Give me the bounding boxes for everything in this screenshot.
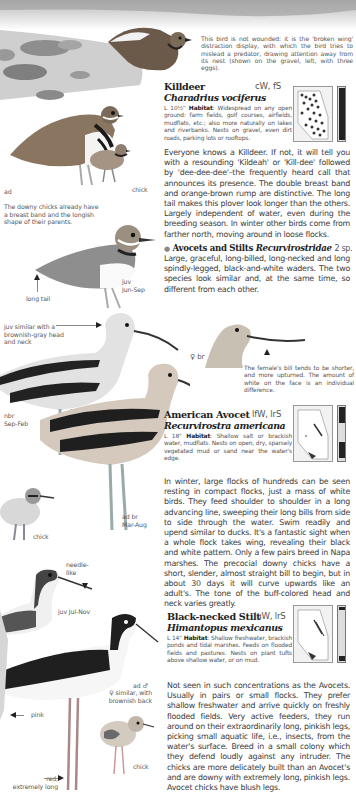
broken-wing-caption: This bird is not wounded: it is the 'bro…	[201, 35, 353, 71]
stilt-habitat-label: Habitat	[184, 635, 208, 641]
red-arrow-line	[44, 778, 58, 779]
avocet-status-code: lfW, lrS	[252, 409, 281, 419]
avocet-habitat-text: : Shallow salt or brackish water, mudfla…	[164, 433, 292, 461]
label-needle-like: needle- like	[66, 561, 89, 576]
label-juv-avocet-note: juv similar with a brownish-gray head an…	[4, 323, 76, 346]
juv-note-arrow-line	[56, 325, 96, 326]
killdeer-name: Killdeer	[164, 81, 205, 92]
killdeer-adult-illustration	[0, 95, 160, 185]
female-note: The female's bill tends to be shorter, a…	[244, 365, 354, 394]
label-long-tail: long tail	[26, 295, 50, 303]
female-bill-arrow-icon	[264, 349, 270, 355]
label-ad-br: ad br Mar-Aug	[122, 513, 147, 528]
killdeer-length: L 10½"	[164, 105, 186, 111]
label-pink: pink	[31, 711, 44, 719]
stilt-status-code: luW, lrS	[254, 611, 286, 621]
avocet-latin-name: Recurvirostra americana	[164, 420, 285, 431]
killdeer-latin-name: Charadrius vociferus	[164, 92, 266, 103]
family-count: 2 sp.	[334, 244, 352, 253]
family-latin: Recurvirostridae	[256, 243, 332, 253]
juv-note-arrow-icon	[96, 322, 102, 328]
avocet-range-map	[293, 405, 333, 462]
long-tail-arrow-line	[37, 280, 38, 292]
killdeer-description: Everyone knows a Killdeer. If not, it wi…	[164, 148, 350, 240]
stilt-description: Not seen in such concentrations as the A…	[167, 681, 350, 793]
stilt-name: Black-necked Stilt	[167, 611, 260, 622]
label-ad: ad	[4, 188, 12, 196]
family-heading: ● Avocets and Stilts Recurvirostridae 2 …	[164, 243, 354, 253]
stilt-seasonal-bar	[337, 605, 346, 663]
label-nbr: nbr Sep-Feb	[4, 412, 28, 427]
avocet-female-head-illustration	[205, 318, 315, 368]
stilt-female-note: ♀ similar, with brownish back	[104, 689, 152, 704]
stilt-chick-illustration	[96, 712, 156, 782]
family-bullet-icon: ●	[164, 244, 170, 253]
family-description: Large, graceful, long-billed, long-necke…	[164, 254, 350, 295]
killdeer-seasonal-bar	[337, 86, 346, 142]
killdeer-habitat-label: Habitat	[189, 105, 213, 111]
needle-arrow-icon	[82, 583, 88, 589]
family-name: Avocets and Stilts	[173, 243, 253, 253]
stilt-range-map	[293, 605, 333, 663]
pink-arrow-line	[16, 715, 24, 716]
label-avocet-chick: chick	[33, 533, 49, 541]
label-juv-killdeer: juv Jun-Sep	[122, 278, 145, 293]
killdeer-habitat: L 10½" Habitat: Widespread on any open g…	[164, 105, 292, 142]
avocet-seasonal-bar	[337, 405, 346, 462]
avocet-name: American Avocet	[164, 409, 250, 420]
label-stilt-chick: chick	[133, 763, 149, 771]
stilt-latin-name: Himantopus mexicanus	[167, 622, 282, 633]
killdeer-chick-illustration	[85, 140, 135, 185]
avocet-chick-illustration	[0, 480, 60, 540]
avocet-habitat-label: Habitat	[186, 433, 210, 439]
killdeer-range-map	[293, 86, 333, 142]
stilt-length: L 14"	[167, 635, 182, 641]
stilt-habitat: L 14" Habitat: Shallow freshwater, brack…	[167, 635, 292, 665]
avocet-length: L 18"	[164, 433, 182, 439]
label-chick: chick	[132, 186, 148, 194]
avocet-habitat: L 18" Habitat: Shallow salt or brackish …	[164, 433, 292, 463]
label-female-br: ♀ br	[190, 354, 204, 362]
killdeer-status-code: cW, fS	[255, 81, 281, 91]
avocet-description: In winter, large flocks of hundreds can …	[164, 477, 350, 610]
red-arrow-icon	[58, 775, 64, 781]
